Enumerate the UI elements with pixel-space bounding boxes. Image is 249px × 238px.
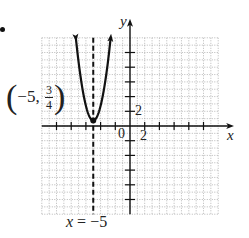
close-paren: )	[54, 80, 65, 114]
open-paren: (	[6, 80, 17, 114]
x-tick-label-2: 2	[140, 128, 147, 144]
vertex-y-fraction: 3 4	[45, 84, 53, 111]
x-axis-label: x	[227, 127, 234, 144]
fraction-numerator: 3	[46, 84, 52, 96]
y-tick-label-2: 2	[135, 103, 142, 119]
vertex-label-prefix: −5,	[17, 87, 44, 107]
vertex-label: ( −5, 3 4 )	[6, 80, 65, 114]
y-axis-label: y	[120, 13, 127, 30]
fraction-denominator: 4	[46, 99, 52, 111]
origin-label: 0	[118, 126, 125, 142]
asym-rest: = −5	[73, 213, 107, 230]
parabola-graph	[0, 0, 249, 238]
axis-of-symmetry-label: x = −5	[66, 213, 107, 231]
vertex-point	[90, 117, 96, 123]
